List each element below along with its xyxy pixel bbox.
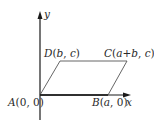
point-label-c: C(a+b, c) [104, 47, 154, 59]
point-label-d: D(b, c) [43, 47, 80, 59]
point-c-name: C [104, 47, 112, 59]
y-axis-arrow-icon [38, 11, 43, 19]
point-b-name: B [91, 96, 100, 108]
point-label-b: B(a, 0) [91, 96, 128, 108]
parallelogram-abcd [40, 61, 127, 95]
point-label-a: A(0, 0) [7, 96, 44, 108]
parallelogram-diagram: y x D(b, c) C(a+b, c) A(0, 0) B(a, 0) [0, 0, 154, 122]
y-axis-label: y [43, 8, 51, 20]
